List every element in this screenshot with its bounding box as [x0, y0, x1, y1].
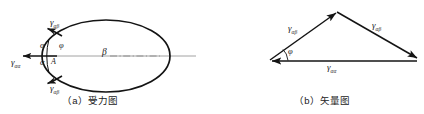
panel-a-label-gamma-alpha-alpha: γαα [11, 58, 20, 69]
gamma-subscript: αβ [54, 23, 60, 29]
gamma-subscript: αα [15, 63, 21, 69]
panel-b-vector-gamma-ab-left [270, 13, 336, 60]
panel-a-label-alpha-upper: α [40, 41, 44, 50]
panel-b-label-gamma-alpha-alpha: γαα [327, 63, 336, 74]
panel-a-caption: （a）受力图 [62, 93, 118, 107]
panel-a-label-phi: φ [59, 41, 64, 50]
panel-b-label-phi: φ [288, 47, 293, 56]
gamma-subscript: αα [331, 68, 337, 74]
panel-b-label-gamma-alpha-beta-right: γαβ [372, 21, 381, 32]
panel-b-label-gamma-alpha-beta-left: γαβ [288, 24, 297, 35]
panel-b-vector-gamma-ab-right [337, 12, 417, 58]
panel-a-label-beta: β [102, 48, 107, 58]
panel-a-label-alpha-lower: α [40, 58, 44, 67]
panel-a-label-gamma-alpha-beta-bottom: γαβ [50, 84, 59, 95]
gamma-subscript: αβ [54, 89, 60, 95]
panel-a-label-gamma-alpha-beta-top: γαβ [50, 18, 59, 29]
panel-a-label-point-a: A [51, 58, 56, 66]
gamma-subscript: αβ [292, 29, 298, 35]
gamma-subscript: αβ [376, 26, 382, 32]
panel-b-caption: （b）矢量图 [294, 93, 350, 107]
figure-container: γαβ γαβ γαα α α φ A β （a）受力图 γαβ γαβ γαα… [0, 0, 424, 114]
